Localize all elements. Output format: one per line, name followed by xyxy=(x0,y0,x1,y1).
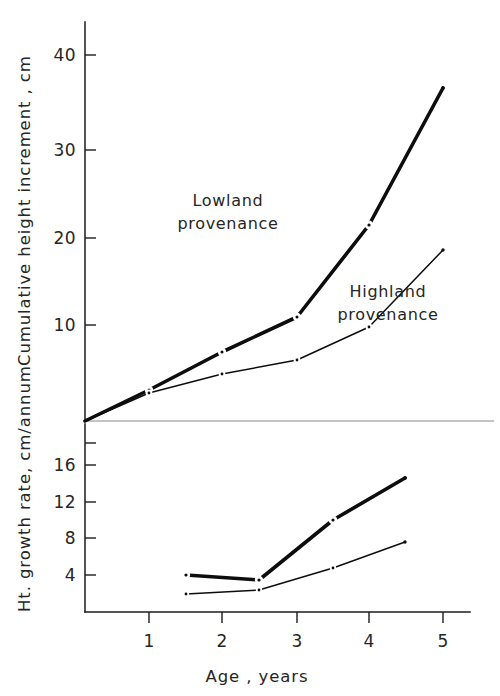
lower-series-lowland-markers xyxy=(182,476,407,584)
annotation-highland: Highland provenance xyxy=(337,282,438,324)
lower-ytick-label-16: 16 xyxy=(54,455,76,475)
upper-ytick-label-30: 30 xyxy=(54,140,76,160)
upper-ytick-label-20: 20 xyxy=(54,228,76,248)
upper-panel: 40 30 20 10 Cumulative height increment … xyxy=(15,22,494,421)
x-tick-marks xyxy=(149,612,443,623)
upper-y-axis-title: Cumulative height increment , cm xyxy=(15,55,34,366)
lower-y-tick-marks xyxy=(85,443,96,575)
annotation-lowland-line1: Lowland xyxy=(193,191,264,210)
lower-ytick-label-4: 4 xyxy=(65,565,76,585)
xtick-label-4: 4 xyxy=(363,631,374,651)
upper-ytick-label-10: 10 xyxy=(54,315,76,335)
upper-series-lowland-line xyxy=(85,88,443,421)
lower-series-lowland-line xyxy=(186,478,405,580)
lower-panel: 16 12 8 4 Ht. growth rate, cm/annum 1 2 … xyxy=(15,365,470,686)
lower-ytick-label-8: 8 xyxy=(65,528,76,548)
xtick-label-1: 1 xyxy=(143,631,154,651)
lower-ytick-label-12: 12 xyxy=(54,492,76,512)
lower-y-axis-title: Ht. growth rate, cm/annum xyxy=(15,365,34,612)
xtick-label-2: 2 xyxy=(216,631,227,651)
figure-container: 40 30 20 10 Cumulative height increment … xyxy=(0,0,500,696)
annotation-highland-line2: provenance xyxy=(337,305,438,324)
annotation-lowland: Lowland provenance xyxy=(177,191,278,233)
annotation-highland-line1: Highland xyxy=(350,282,427,301)
xtick-label-5: 5 xyxy=(437,631,448,651)
upper-y-tick-marks xyxy=(85,55,96,325)
annotation-lowland-line2: provenance xyxy=(177,214,278,233)
x-axis-title: Age , years xyxy=(206,667,309,686)
upper-ytick-label-40: 40 xyxy=(54,45,76,65)
xtick-label-3: 3 xyxy=(291,631,302,651)
dual-panel-line-chart: 40 30 20 10 Cumulative height increment … xyxy=(0,0,500,696)
upper-series-lowland-markers xyxy=(145,86,445,394)
